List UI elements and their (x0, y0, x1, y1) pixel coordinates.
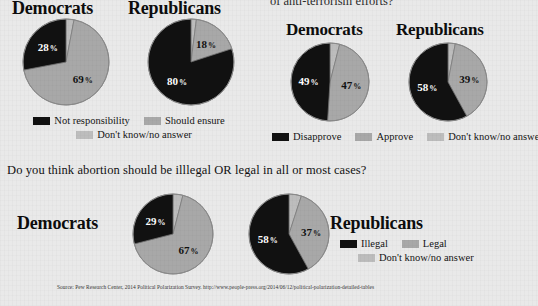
pie-antiterrorism-democrats: 49%47% (290, 42, 370, 122)
legend-row-secondary: Don't know/no answer (0, 128, 268, 142)
legend-label-disapprove: Disapprove (293, 130, 341, 144)
legend-label-should-ensure: Should ensure (165, 114, 225, 128)
legend-responsibility: Not responsibility Should ensure Don't k… (0, 114, 268, 142)
pie-abortion-republicans: 58%37% (248, 193, 330, 275)
question-abortion: Do you think abortion should be illlegal… (7, 163, 366, 178)
chart-title-democrats-responsibility: Democrats (12, 0, 93, 19)
legend-row-primary: Not responsibility Should ensure (0, 114, 268, 128)
chart-title-democrats-abortion: Democrats (17, 213, 98, 234)
legend-swatch-approve (355, 133, 372, 141)
chart-title-republicans-abortion: Republicans (330, 213, 423, 234)
question-antiterrorism-clipped: of anti-terrorism efforts? (270, 0, 393, 9)
legend-item-not-responsibility: Not responsibility (33, 114, 130, 128)
legend-label-dont-know: Don't know/no answer (379, 251, 474, 265)
legend-item-disapprove: Disapprove (272, 130, 341, 144)
chart-title-democrats-antiterrorism: Democrats (286, 20, 363, 40)
legend-item-illegal: Illegal (340, 237, 388, 251)
legend-label-dont-know: Don't know/no answer (97, 128, 192, 142)
legend-label-dont-know: Don't know/no answer (448, 130, 538, 144)
legend-label-legal: Legal (423, 237, 447, 251)
pie-antiterrorism-republicans: 58%39% (408, 42, 488, 122)
pie-responsibility-democrats: 28%69% (22, 18, 110, 106)
panel-antiterrorism: of anti-terrorism efforts? Democrats Rep… (268, 0, 538, 152)
legend-swatch-should-ensure (144, 117, 161, 125)
legend-label-approve: Approve (376, 130, 413, 144)
legend-swatch-dont-know (358, 254, 375, 262)
legend-item-dont-know: Don't know/no answer (76, 128, 192, 142)
panel-responsibility: Democrats Republicans 28%69% 80%18% Not … (0, 0, 268, 152)
legend-swatch-not-responsibility (33, 117, 50, 125)
legend-item-dont-know: Don't know/no answer (427, 130, 538, 144)
legend-item-legal: Legal (402, 237, 447, 251)
legend-swatch-dont-know (76, 131, 93, 139)
legend-label-not-responsibility: Not responsibility (54, 114, 130, 128)
legend-swatch-disapprove (272, 133, 289, 141)
legend-abortion: Illegal Legal Don't know/no answer (340, 237, 535, 265)
pie-responsibility-republicans: 80%18% (147, 18, 235, 106)
source-citation: Source: Pew Research Center, 2014 Politi… (57, 284, 374, 290)
legend-item-should-ensure: Should ensure (144, 114, 225, 128)
panel-abortion: Do you think abortion should be illlegal… (0, 155, 538, 306)
legend-row-primary: Illegal Legal (340, 237, 535, 251)
pie-abortion-democrats: 29%67% (132, 193, 214, 275)
legend-swatch-legal (402, 240, 419, 248)
chart-title-republicans-antiterrorism: Republicans (396, 20, 484, 40)
legend-swatch-dont-know (427, 133, 444, 141)
chart-title-republicans-responsibility: Republicans (128, 0, 221, 19)
legend-row-secondary: Don't know/no answer (340, 251, 535, 265)
legend-swatch-illegal (340, 240, 357, 248)
legend-antiterrorism: Disapprove Approve Don't know/no answer (268, 130, 538, 144)
legend-item-approve: Approve (355, 130, 413, 144)
legend-label-illegal: Illegal (361, 237, 388, 251)
legend-row-primary: Disapprove Approve Don't know/no answer (268, 130, 538, 144)
legend-item-dont-know: Don't know/no answer (358, 251, 474, 265)
